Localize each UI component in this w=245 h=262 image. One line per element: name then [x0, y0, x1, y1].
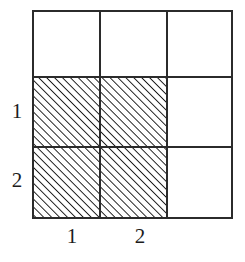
row-label-1: 1: [6, 101, 28, 122]
grid-figure: 1 2 1 2: [0, 0, 245, 262]
column-label-1: 1: [61, 226, 83, 247]
row-label-2: 2: [6, 170, 28, 191]
grid-diagram: [0, 0, 245, 262]
column-label-2: 2: [129, 226, 151, 247]
